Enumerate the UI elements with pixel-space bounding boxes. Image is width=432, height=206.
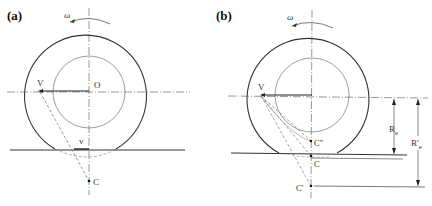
point-C-label: C [314, 159, 320, 169]
rotation-arrow-icon [70, 19, 75, 23]
C-prime-level-line [314, 186, 425, 187]
point-v-label: v [79, 136, 84, 146]
rotation-arrow-icon [292, 23, 297, 27]
rotation-arc [70, 18, 110, 24]
Re-label: Re [389, 124, 398, 137]
point-C-label: C [93, 177, 99, 187]
ground-line [231, 153, 407, 155]
Re-prime-arrow-bottom-icon [416, 180, 420, 186]
panel-b-label: (b) [216, 8, 232, 23]
point-C [310, 155, 313, 158]
outer-tire [247, 38, 369, 153]
point-V-label: V [37, 78, 44, 88]
C-level-line [311, 158, 403, 159]
rotation-arc [292, 22, 333, 28]
Re-prime-arrow-top-icon [416, 99, 420, 105]
point-C2 [310, 140, 313, 143]
omega-label: ω [64, 10, 70, 20]
point-C [88, 180, 91, 183]
point-C1 [310, 185, 313, 188]
V-to-C2-line [261, 96, 311, 141]
panel-b: (b) ω V C" C C' Re [216, 8, 428, 198]
Re-arrow-bottom-icon [392, 148, 396, 154]
point-C2-label: C" [314, 138, 323, 148]
horizontal-axis [228, 96, 428, 98]
point-V-label: V [258, 82, 265, 92]
point-C1-label: C' [296, 183, 304, 193]
V-to-C1-line [261, 96, 311, 186]
panel-a-label: (a) [7, 8, 22, 23]
center-O-label: O [94, 80, 101, 90]
panel-a: (a) ω V O v C [7, 8, 190, 195]
omega-label: ω [287, 12, 293, 22]
V-to-C-line [261, 96, 311, 156]
tire-rolling-diagram: (a) ω V O v C (b) ω [0, 0, 432, 206]
Re-arrow-top-icon [392, 99, 396, 105]
